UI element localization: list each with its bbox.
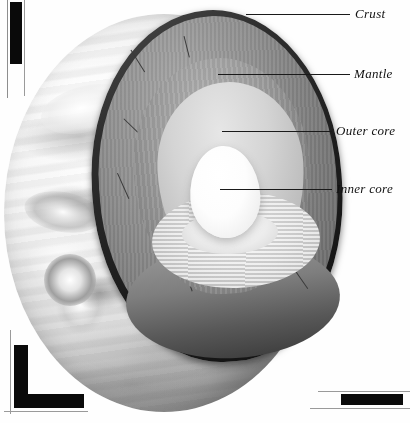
leader-line-crust — [246, 14, 350, 15]
registration-mark-bottom-right — [341, 394, 403, 405]
label-mantle: Mantle — [354, 66, 393, 82]
mantle-crack — [117, 173, 129, 199]
leader-line-mantle — [218, 74, 350, 75]
label-outer-core: Outer core — [336, 123, 395, 139]
label-crust: Crust — [355, 6, 385, 22]
label-inner-core: Inner core — [336, 181, 393, 197]
planet-interior-figure: Crust Mantle Outer core Inner core — [0, 0, 410, 423]
leader-line-outer-core — [222, 131, 332, 132]
planet-illustration — [0, 6, 340, 418]
leader-line-inner-core — [220, 189, 332, 190]
cutaway-wedge — [86, 6, 348, 386]
mantle-crack — [131, 50, 146, 73]
mantle-crack — [184, 36, 190, 58]
